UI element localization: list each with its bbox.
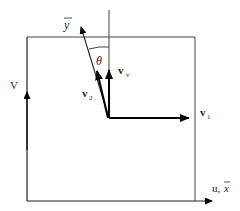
svg-text:x: x [223, 182, 229, 194]
svg-text:v: v [126, 71, 130, 79]
vv-label: v v [118, 64, 130, 79]
svg-text:2: 2 [89, 94, 93, 102]
V-axis-label: V [10, 79, 18, 91]
svg-text:v: v [200, 106, 206, 118]
v1-label: v 1 [200, 106, 211, 121]
v2-label: v 2 [82, 87, 93, 102]
u-x-bar-label: u, x [212, 182, 230, 194]
svg-text:1: 1 [207, 113, 211, 121]
velocity-diagram: y θ v v v 2 v 1 V u, x [0, 0, 240, 211]
theta-label: θ [96, 54, 102, 68]
svg-text:y: y [63, 18, 70, 32]
svg-text:v: v [82, 87, 88, 99]
svg-text:v: v [118, 64, 124, 76]
theta-arc [89, 47, 109, 49]
y-bar-label: y [63, 18, 72, 32]
svg-text:u,: u, [212, 182, 221, 194]
v2-vector-arrow [97, 71, 108, 118]
